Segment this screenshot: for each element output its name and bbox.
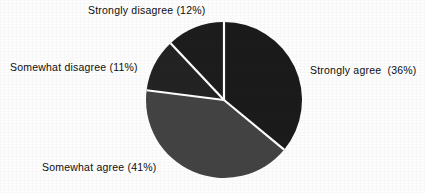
slice-label-somewhat-agree: Somewhat agree (41%)	[42, 161, 157, 173]
slice-label-strongly-agree: Strongly agree (36%)	[310, 64, 417, 76]
slice-label-somewhat-disagree: Somewhat disagree (11%)	[10, 61, 138, 73]
pie-chart-figure: Strongly disagree (12%) Somewhat disagre…	[0, 0, 425, 193]
slice-label-strongly-disagree: Strongly disagree (12%)	[88, 4, 205, 16]
